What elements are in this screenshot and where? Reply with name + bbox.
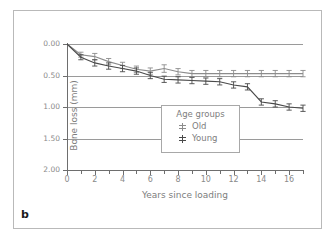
y-tick (63, 44, 67, 45)
legend-label-young: Young (192, 134, 217, 143)
errorbar-marker-icon (178, 134, 187, 143)
series-line (67, 44, 303, 108)
legend-box: Age groups Old Young (161, 105, 240, 153)
legend-title: Age groups (162, 109, 239, 120)
errorbar-marker-icon (178, 122, 187, 131)
y-tick (63, 139, 67, 140)
legend-label-old: Old (192, 122, 206, 131)
legend-item-old[interactable]: Old (162, 122, 239, 131)
legend-item-young[interactable]: Young (162, 134, 239, 143)
figure-panel: b Bone loss (mm) 0.000.501.001.502.00 02… (0, 0, 335, 239)
y-tick (63, 76, 67, 77)
series-line (67, 44, 303, 74)
y-tick (63, 107, 67, 108)
y-tick (63, 170, 67, 171)
series-old (67, 44, 306, 77)
series-young (67, 44, 306, 111)
